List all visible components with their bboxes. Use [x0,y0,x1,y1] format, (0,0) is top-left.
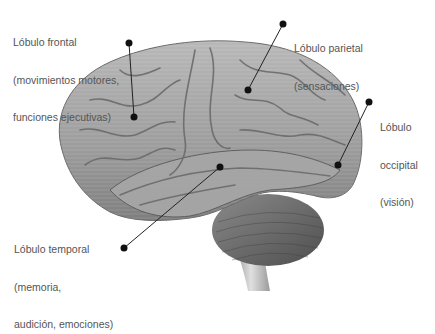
label-frontal-title: Lóbulo frontal [13,36,119,49]
label-occipital-lobe: Lóbulo occipital (visión) [380,96,418,234]
label-occipital-title-2: occipital [380,159,418,172]
label-occipital-desc: (visión) [380,196,418,209]
dot-parietal-label [280,21,287,28]
label-frontal-desc-1: (movimientos motores, [13,74,119,87]
dot-frontal-target [131,114,138,121]
label-frontal-desc-2: funciones ejecutivas) [13,111,119,124]
dot-temporal-target [217,164,224,171]
label-parietal-lobe: Lóbulo parietal (sensaciones) [294,17,363,117]
dot-occipital-label [366,99,373,106]
label-frontal-lobe: Lóbulo frontal (movimientos motores, fun… [13,11,119,149]
label-temporal-desc-1: (memoria, [14,281,113,294]
label-temporal-desc-2: audición, emociones) [14,318,113,331]
dot-parietal-target [245,87,252,94]
label-temporal-lobe: Lóbulo temporal (memoria, audición, emoc… [14,218,113,334]
dot-temporal-label [121,245,128,252]
label-parietal-desc: (sensaciones) [294,80,363,93]
dot-frontal-label [126,40,133,47]
label-temporal-title: Lóbulo temporal [14,243,113,256]
label-occipital-title-1: Lóbulo [380,121,418,134]
dot-occipital-target [335,162,342,169]
label-parietal-title: Lóbulo parietal [294,42,363,55]
